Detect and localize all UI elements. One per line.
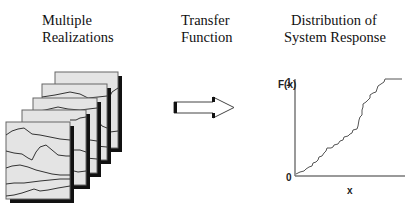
cdf-curve [296,79,402,174]
stacked-realizations-icon [6,72,122,203]
y-tick-0: 0 [286,172,292,183]
diagram-canvas: F(x) 1 0 x [0,0,416,211]
y-tick-1: 1 [286,77,292,88]
x-axis-title: x [347,185,353,196]
right-arrow-icon [174,97,234,118]
cdf-chart: F(x) 1 0 x [278,77,405,196]
realization-frame [6,122,74,203]
